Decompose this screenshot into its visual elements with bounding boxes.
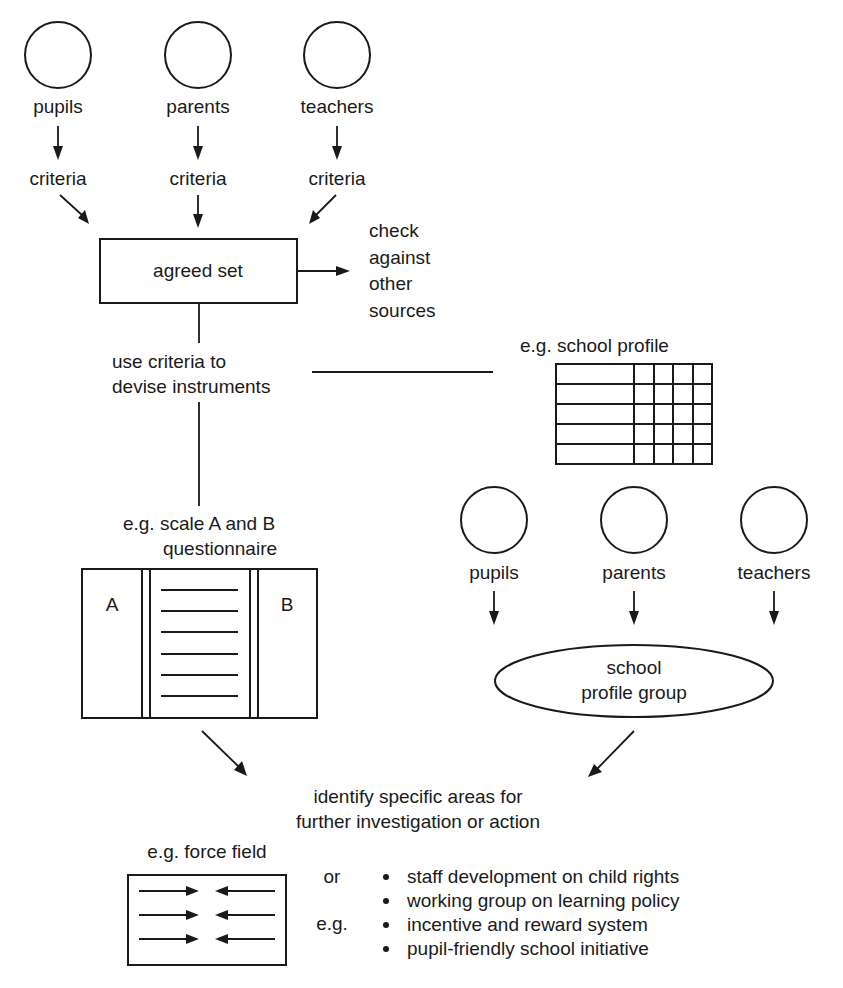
criteria-label: criteria [29, 168, 86, 189]
evaluation-process-diagram: pupils criteria parents criteria teacher… [0, 0, 843, 988]
arrow-diagonal-icon [202, 731, 238, 766]
arrowhead-icon [336, 266, 350, 276]
list-item: working group on learning policy [406, 890, 680, 911]
arrowhead-icon [332, 146, 342, 160]
devise-instruments-note: use criteria to devise instruments [112, 351, 270, 397]
note-line: against [369, 247, 431, 268]
parents-circle-icon [165, 22, 231, 88]
bullet-icon [383, 898, 389, 904]
bullet-icon [383, 946, 389, 952]
criteria-label: criteria [308, 168, 365, 189]
arrow-diagonal-icon [316, 195, 336, 215]
bottom-stakeholder-pupils: pupils [461, 487, 527, 625]
action-list: staff development on child rights workin… [383, 866, 680, 959]
teachers-circle-icon [741, 487, 807, 553]
bullet-icon [383, 874, 389, 880]
note-line: sources [369, 300, 436, 321]
identify-areas-note: identify specific areas for further inve… [296, 786, 540, 832]
arrowhead-icon [53, 146, 63, 160]
force-field-icon [128, 875, 286, 965]
stakeholder-label: teachers [738, 562, 811, 583]
arrow-diagonal-icon [597, 731, 634, 769]
check-sources-note: check against other sources [369, 220, 436, 321]
note-line: other [369, 273, 413, 294]
agreed-set-box: agreed set [100, 239, 297, 303]
arrowhead-icon [629, 611, 639, 625]
questionnaire-caption: e.g. scale A and B questionnaire [123, 513, 277, 559]
top-stakeholder-pupils: pupils criteria [25, 22, 91, 224]
questionnaire-icon: A B [82, 569, 317, 718]
force-field-caption: e.g. force field [147, 841, 266, 862]
scale-b-label: B [281, 594, 294, 615]
teachers-circle-icon [304, 22, 370, 88]
stakeholder-label: parents [602, 562, 665, 583]
school-profile-caption: e.g. school profile [520, 335, 669, 356]
note-line: check [369, 220, 419, 241]
stakeholder-label: teachers [301, 96, 374, 117]
arrowhead-icon [489, 611, 499, 625]
list-item: pupil-friendly school initiative [407, 938, 649, 959]
stakeholder-label: pupils [33, 96, 83, 117]
eg-label: e.g. [316, 913, 348, 934]
top-stakeholder-teachers: teachers criteria [301, 22, 374, 224]
note-line: identify specific areas for [313, 786, 523, 807]
stakeholder-label: parents [166, 96, 229, 117]
stakeholder-label: pupils [469, 562, 519, 583]
list-item: staff development on child rights [407, 866, 679, 887]
school-profile-table-icon [556, 364, 712, 464]
arrow-diagonal-icon [60, 195, 82, 215]
agreed-set-label: agreed set [153, 260, 244, 281]
bullet-icon [383, 922, 389, 928]
ellipse-line: school [607, 657, 662, 678]
bottom-stakeholder-teachers: teachers [738, 487, 811, 625]
ellipse-line: profile group [581, 682, 687, 703]
arrowhead-icon [193, 146, 203, 160]
caption-line: e.g. scale A and B [123, 513, 275, 534]
or-label: or [324, 866, 342, 887]
caption-line: questionnaire [163, 538, 277, 559]
note-line: devise instruments [112, 376, 270, 397]
pupils-circle-icon [461, 487, 527, 553]
parents-circle-icon [601, 487, 667, 553]
list-item: incentive and reward system [407, 914, 648, 935]
top-stakeholder-parents: parents criteria [165, 22, 231, 228]
criteria-label: criteria [169, 168, 226, 189]
pupils-circle-icon [25, 22, 91, 88]
arrowhead-icon [769, 611, 779, 625]
school-profile-group-ellipse: school profile group [495, 645, 773, 717]
arrowhead-icon [193, 214, 203, 228]
note-line: further investigation or action [296, 811, 540, 832]
scale-a-label: A [106, 594, 119, 615]
note-line: use criteria to [112, 351, 226, 372]
bottom-stakeholder-parents: parents [601, 487, 667, 625]
